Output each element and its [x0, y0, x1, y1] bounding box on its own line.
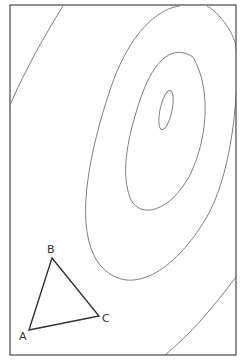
contour-2 — [126, 52, 205, 210]
contour-diagram: A B C — [0, 0, 247, 360]
contour-3 — [86, 6, 237, 280]
contour-innermost — [156, 89, 176, 131]
triangle-abc — [29, 258, 99, 330]
vertex-label-a: A — [19, 330, 27, 343]
contour-left — [10, 6, 63, 105]
vertex-label-c: C — [102, 312, 110, 325]
contour-4 — [165, 277, 236, 355]
vertex-label-b: B — [47, 243, 55, 256]
